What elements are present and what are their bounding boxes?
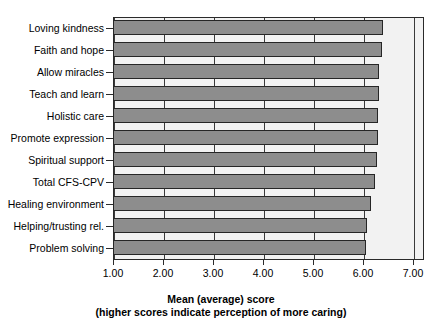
- bars-layer: [113, 17, 424, 260]
- y-axis-tick: [106, 116, 113, 117]
- y-axis-label: Faith and hope: [34, 39, 104, 61]
- bar: [113, 130, 378, 145]
- x-axis-tick: [263, 260, 264, 265]
- bar-row: [113, 17, 424, 39]
- y-axis-tick: [106, 226, 113, 227]
- x-axis-tick: [413, 260, 414, 265]
- y-axis-tick: [106, 72, 113, 73]
- bar: [113, 64, 379, 79]
- x-axis-tick-label: 6.00: [353, 267, 373, 279]
- bar-row: [113, 39, 424, 61]
- bar-row: [113, 83, 424, 105]
- bar-row: [113, 215, 424, 237]
- x-axis-tick-label: 2.00: [153, 267, 173, 279]
- y-axis-label: Loving kindness: [29, 17, 104, 39]
- bar: [113, 20, 383, 35]
- x-axis-tick: [213, 260, 214, 265]
- y-axis-tick: [106, 160, 113, 161]
- bar: [113, 174, 375, 189]
- y-axis-tick: [106, 28, 113, 29]
- bar-row: [113, 171, 424, 193]
- y-axis-tick: [106, 138, 113, 139]
- bar: [113, 240, 366, 255]
- y-axis-label: Healing environment: [8, 193, 104, 215]
- x-axis-tick: [363, 260, 364, 265]
- y-axis-tick: [106, 94, 113, 95]
- x-axis-tick-label: 7.00: [403, 267, 423, 279]
- x-axis-title: Mean (average) score: [0, 293, 442, 305]
- x-axis-tick: [163, 260, 164, 265]
- y-axis-label: Holistic care: [47, 105, 104, 127]
- bar-row: [113, 61, 424, 83]
- y-axis-label: Helping/trusting rel.: [14, 215, 104, 237]
- y-axis-label: Promote expression: [11, 127, 104, 149]
- y-axis-tick: [106, 248, 113, 249]
- y-axis-tick: [106, 182, 113, 183]
- bar: [113, 42, 382, 57]
- y-axis-label: Total CFS-CPV: [33, 171, 104, 193]
- bar: [113, 196, 371, 211]
- x-axis-tick-label: 5.00: [303, 267, 323, 279]
- bar-row: [113, 127, 424, 149]
- x-axis-tick-label: 1.00: [103, 267, 123, 279]
- bar: [113, 86, 379, 101]
- bar: [113, 108, 378, 123]
- x-axis-tick: [113, 260, 114, 265]
- bar-row: [113, 237, 424, 259]
- x-axis-tick: [313, 260, 314, 265]
- y-axis-label: Problem solving: [29, 237, 104, 259]
- x-axis-tick-labels: 1.002.003.004.005.006.007.00: [0, 267, 442, 281]
- y-axis-tick: [106, 204, 113, 205]
- y-axis-tick: [106, 50, 113, 51]
- x-axis-subtitle: (higher scores indicate perception of mo…: [0, 306, 442, 318]
- y-axis-label: Spiritual support: [28, 149, 104, 171]
- x-axis-tick-label: 4.00: [253, 267, 273, 279]
- bar-row: [113, 149, 424, 171]
- y-axis-label: Teach and learn: [29, 83, 104, 105]
- y-axis-label: Allow miracles: [37, 61, 104, 83]
- bar: [113, 152, 377, 167]
- x-axis-ticks: [113, 260, 424, 266]
- bar-row: [113, 105, 424, 127]
- x-axis-tick-label: 3.00: [203, 267, 223, 279]
- bar-row: [113, 193, 424, 215]
- bar: [113, 218, 367, 233]
- y-axis-labels: Loving kindnessFaith and hopeAllow mirac…: [0, 17, 113, 260]
- bar-chart-figure: Loving kindnessFaith and hopeAllow mirac…: [0, 0, 442, 328]
